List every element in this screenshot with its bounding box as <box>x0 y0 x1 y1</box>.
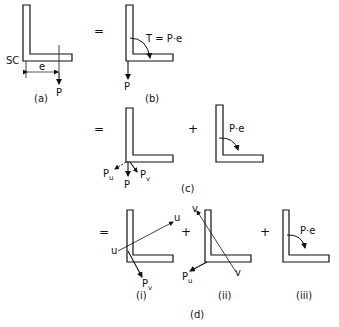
plus-sign: + <box>181 225 191 239</box>
angle-section <box>126 108 173 162</box>
eccentricity-label: e <box>39 61 45 72</box>
v-axis-end-label: v <box>235 267 241 278</box>
equals-sign: = <box>94 122 104 136</box>
load-label: P <box>56 87 62 98</box>
angle-section <box>205 210 251 262</box>
component-v-arrow <box>130 162 137 172</box>
sub-panel-ii: v v Pu (ii) <box>182 203 251 301</box>
panel-c: = Pu P Pv + P·e (c) <box>94 105 263 194</box>
panel-d: = u u Pv (i) + v v Pu (ii) + P·e <box>99 203 329 320</box>
angle-section <box>23 5 72 61</box>
caption-ii: (ii) <box>218 290 231 301</box>
load-label: P <box>124 81 130 92</box>
sub-panel-iii: P·e (iii) <box>283 210 329 301</box>
component-v-label: Pv <box>140 169 150 183</box>
v-axis-arrow <box>197 211 236 272</box>
equals-sign: = <box>94 24 104 38</box>
torque-arc-arrow <box>219 138 238 150</box>
load-label: P <box>124 179 130 190</box>
plus-sign: + <box>260 225 270 239</box>
u-axis-arrow <box>118 222 173 251</box>
torque-arc-arrow <box>287 235 305 248</box>
u-axis-start-label: u <box>111 245 117 256</box>
plus-sign: + <box>188 122 198 136</box>
caption-a: (a) <box>34 93 48 104</box>
load-u-label: Pu <box>182 271 192 285</box>
angle-section <box>283 210 329 262</box>
torque-label: P·e <box>300 225 315 236</box>
caption-i: (i) <box>136 290 147 301</box>
panel-a: SC e P (a) <box>6 5 72 104</box>
equals-sign: = <box>99 225 109 239</box>
v-axis-start-label: v <box>192 203 198 214</box>
angle-section <box>127 210 173 262</box>
panel-b: = T = P·e P (b) <box>94 5 182 104</box>
caption-b: (b) <box>145 93 159 104</box>
caption-iii: (iii) <box>296 290 312 301</box>
load-u-arrow <box>190 262 207 271</box>
sub-panel-i: u u Pv (i) <box>111 210 180 301</box>
caption-d: (d) <box>190 309 204 320</box>
caption-c: (c) <box>181 183 194 194</box>
angle-section-load-decomposition-diagram: SC e P (a) = T = P·e P (b) = Pu P Pv + P… <box>0 0 339 327</box>
component-u-label: Pu <box>103 168 113 182</box>
u-axis-end-label: u <box>174 212 180 223</box>
component-u-arrow <box>115 162 126 169</box>
torque-label: T = P·e <box>145 33 182 44</box>
torque-label: P·e <box>229 123 244 134</box>
shear-center-label: SC <box>6 55 19 66</box>
